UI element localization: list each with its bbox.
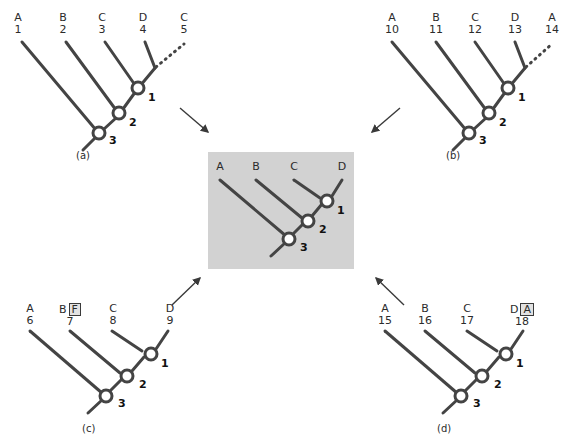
branch-a-tip3: [105, 42, 135, 85]
branch-d-tip2: [425, 331, 475, 373]
branch-center-tipB: [256, 180, 302, 218]
node-b-3: [463, 127, 475, 139]
tip-label-d-0: A 15: [372, 303, 398, 327]
panel-d: A 15 B 16 C 17 DA 18 1 2 3 (d): [375, 295, 558, 446]
branch-a-tip2: [66, 42, 116, 110]
node-number-d-3: 3: [473, 397, 481, 410]
node-a-2: [113, 107, 125, 119]
tip-label-a-4: C 5: [172, 12, 196, 36]
branch-a-tip4: [145, 42, 155, 68]
node-a-3: [93, 127, 105, 139]
node-d-2: [476, 370, 488, 382]
branch-center-tipD: [332, 180, 342, 196]
branch-c-tip4: [156, 331, 168, 349]
tip-number: 15: [372, 315, 398, 327]
node-c-3: [100, 390, 112, 402]
branch-center-node1-node2: [312, 204, 322, 216]
tip-number: 10: [377, 24, 407, 36]
branch-b-root: [453, 138, 465, 150]
tip-label-c-2: C 8: [101, 303, 125, 327]
center-tip-label-1: B: [246, 160, 266, 173]
branch-center-tipA: [220, 180, 286, 236]
tip-number: 1: [6, 24, 30, 36]
branch-c-node1-node2: [132, 357, 144, 371]
node-number-c-1: 1: [161, 357, 169, 370]
panel-caption-d: (d): [437, 423, 451, 434]
tip-number: 3: [90, 24, 114, 36]
branch-c-tip3: [112, 331, 142, 351]
tip-number: 6: [18, 315, 42, 327]
node-c-2: [121, 370, 133, 382]
branch-a-node2-node3: [104, 118, 116, 129]
node-center-2: [302, 215, 314, 227]
center-panel: A B C D 1 2 3: [208, 152, 354, 269]
node-number-center-2: 2: [319, 223, 327, 236]
node-center-3: [283, 233, 295, 245]
tip-number: 4: [131, 24, 155, 36]
tip-number: 17: [454, 315, 480, 327]
tip-number: 8: [101, 315, 125, 327]
node-number-a-1: 1: [148, 91, 156, 104]
tip-label-a-3: D 4: [131, 12, 155, 36]
tip-label-c-1: BF 7: [58, 303, 82, 328]
tip-number: 5: [172, 24, 196, 36]
branch-a-dashed-tip5: [156, 44, 184, 67]
node-number-b-1: 1: [518, 91, 526, 104]
node-number-center-3: 3: [300, 241, 308, 254]
branch-d-tip3: [467, 331, 497, 351]
tip-label-a-1: B 2: [51, 12, 75, 36]
branch-d-node2-node3: [465, 379, 477, 391]
tip-label-a-0: A 1: [6, 12, 30, 36]
node-c-1: [145, 348, 157, 360]
tip-number: 14: [537, 24, 564, 36]
branch-b-tip4: [515, 42, 525, 68]
tip-number: 16: [412, 315, 438, 327]
branch-d-tip4: [511, 331, 523, 349]
node-number-d-1: 1: [516, 357, 524, 370]
tip-label-d-1: B 16: [412, 303, 438, 327]
tip-number: 12: [460, 24, 490, 36]
node-b-2: [483, 107, 495, 119]
branch-c-tip2: [70, 331, 120, 373]
panel-a: A 1 B 2 C 3 D 4 C 5 1 2 3 (a): [0, 0, 200, 170]
branch-d-node1-node2: [487, 357, 499, 371]
branch-a-tip1: [22, 42, 96, 130]
tip-label-b-2: C 12: [460, 12, 490, 36]
center-tip-label-3: D: [332, 160, 352, 173]
branch-c-root: [88, 400, 102, 413]
tip-label-b-3: D 13: [500, 12, 530, 36]
node-number-b-2: 2: [499, 116, 507, 129]
node-center-1: [321, 195, 333, 207]
tip-label-c-3: D 9: [158, 303, 182, 327]
node-number-a-2: 2: [129, 116, 137, 129]
tip-label-a-2: C 3: [90, 12, 114, 36]
tip-taxon-text: B: [59, 303, 67, 316]
tip-number: 7: [58, 316, 82, 328]
branch-center-node2-node3: [293, 224, 303, 234]
center-tip-label-0: A: [210, 160, 230, 173]
node-a-1: [132, 82, 144, 94]
tip-number: 13: [500, 24, 530, 36]
branch-center-root: [271, 243, 285, 256]
node-number-b-3: 3: [479, 134, 487, 147]
tip-label-d-3: DA 18: [502, 303, 542, 328]
tip-label-c-0: A 6: [18, 303, 42, 327]
node-number-a-3: 3: [109, 134, 117, 147]
branch-d-root: [443, 400, 457, 413]
tip-number: 9: [158, 315, 182, 327]
branch-d-tip1: [385, 331, 457, 393]
tip-label-d-2: C 17: [454, 303, 480, 327]
tip-number: 2: [51, 24, 75, 36]
branch-b-tip3: [475, 42, 505, 85]
panel-caption-b: (b): [446, 150, 460, 161]
branch-a-root: [83, 138, 95, 150]
branch-b-dashed-tip5: [526, 44, 552, 67]
tip-label-b-1: B 11: [421, 12, 451, 36]
branch-b-node2-node3: [474, 118, 486, 129]
branch-b-tip1: [392, 42, 466, 130]
panel-caption-a: (a): [76, 150, 90, 161]
tip-label-b-4: A 14: [537, 12, 564, 36]
branch-c-tip1: [30, 331, 102, 393]
panel-caption-c: (c): [82, 423, 95, 434]
